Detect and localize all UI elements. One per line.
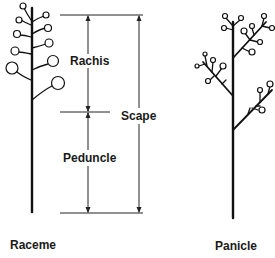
- flower: [45, 39, 53, 47]
- scape-label: Scape: [121, 110, 156, 122]
- flower: [14, 31, 21, 38]
- panicle-label: Panicle: [215, 240, 257, 252]
- flower: [16, 17, 22, 23]
- raceme-illustration: [6, 3, 65, 212]
- arrowhead: [137, 207, 142, 213]
- inflorescence-diagram: [0, 0, 275, 258]
- arrowhead: [86, 112, 91, 118]
- flower: [45, 25, 52, 32]
- arrowhead: [86, 15, 91, 21]
- arrowhead: [137, 15, 142, 21]
- rachis-label: Rachis: [70, 55, 109, 67]
- flower: [20, 3, 26, 9]
- flower: [6, 62, 18, 74]
- flower: [43, 12, 49, 18]
- flower: [52, 77, 65, 90]
- panicle-branch-left: [195, 52, 233, 96]
- arrowhead: [86, 207, 91, 213]
- panicle-illustration: [195, 14, 275, 219]
- flower: [11, 47, 19, 55]
- panicle-branch-lower-right: [233, 81, 273, 130]
- peduncle-label: Peduncle: [63, 152, 116, 164]
- flower: [48, 56, 59, 67]
- raceme-label: Raceme: [10, 239, 56, 251]
- arrowhead: [86, 106, 91, 112]
- raceme-flowers: [6, 3, 65, 100]
